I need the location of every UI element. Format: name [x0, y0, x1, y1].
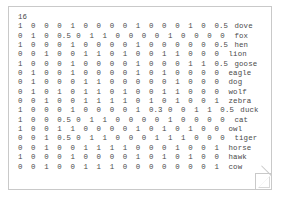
matrix-cell: 0: [31, 50, 44, 59]
matrix-cell: 0: [44, 60, 57, 69]
matrix-cell: 0: [214, 78, 227, 87]
matrix-cell: 0: [76, 116, 89, 125]
matrix-cell: 1: [162, 88, 175, 97]
matrix-cell: 1: [162, 50, 175, 59]
matrix-cell: 0: [214, 50, 227, 59]
matrix-cell: 0: [149, 153, 162, 162]
matrix-cell: 1: [175, 78, 188, 87]
matrix-cell: 0: [110, 50, 123, 59]
matrix-cell: 0: [123, 163, 136, 172]
matrix-cell: 0: [175, 41, 188, 50]
matrix-cell: 1: [136, 69, 149, 78]
row-label-animal: dog: [228, 78, 243, 87]
matrix-cell: 1: [44, 97, 57, 106]
matrix-cell: 1: [136, 153, 149, 162]
matrix-cell: 0: [18, 88, 31, 97]
matrix-cell: 0: [162, 60, 175, 69]
table-row: 0101011010011000wolf: [18, 88, 269, 97]
matrix-cell: 0: [110, 153, 123, 162]
matrix-cell: 0: [162, 163, 175, 172]
matrix-cell: 0: [162, 144, 175, 153]
row-label-animal: lion: [228, 50, 247, 59]
matrix-cell: 0: [57, 69, 70, 78]
matrix-cell: 0: [44, 32, 57, 41]
matrix-cell: 0.5: [57, 32, 76, 41]
matrix-cell: 1: [102, 134, 115, 143]
matrix-cell: 1: [97, 50, 110, 59]
matrix-cell: 0: [76, 32, 89, 41]
table-row: 10001000010.300110.5duck: [18, 106, 269, 115]
matrix-cell: 1: [136, 60, 149, 69]
matrix-cell: 1: [70, 60, 83, 69]
matrix-cell: 1: [97, 97, 110, 106]
matrix-cell: 1: [102, 116, 115, 125]
matrix-cell: 0: [83, 60, 96, 69]
matrix-cell: 0: [110, 69, 123, 78]
matrix-cell: 0: [149, 78, 162, 87]
matrix-cell: 0: [129, 32, 142, 41]
matrix-cell: 0: [31, 125, 44, 134]
table-row: 0010011110001001horse: [18, 144, 269, 153]
matrix-cell: 1: [136, 41, 149, 50]
matrix-cell: 0: [57, 144, 70, 153]
matrix-cell: 0: [83, 22, 96, 31]
matrix-cell: 0.5: [57, 134, 76, 143]
matrix-cell: 0: [18, 69, 31, 78]
matrix-cell: 1: [44, 144, 57, 153]
table-row: 0010011100000001cow: [18, 163, 269, 172]
matrix-cell: 1: [18, 22, 31, 31]
matrix-cell: 1: [83, 144, 96, 153]
matrix-cell: 0: [149, 22, 162, 31]
matrix-cell: 1: [214, 163, 227, 172]
matrix-cell: 1: [110, 97, 123, 106]
matrix-cell: 0: [70, 144, 83, 153]
matrix-cell: 0: [76, 134, 89, 143]
matrix-cell: 0: [188, 163, 201, 172]
matrix-cell: 0: [214, 88, 227, 97]
data-rows-container: 1000100001000100.5dove0100.5011000010000…: [18, 22, 269, 172]
matrix-cell: 1: [97, 163, 110, 172]
matrix-cell: 0: [201, 153, 214, 162]
matrix-cell: 0: [188, 88, 201, 97]
matrix-cell: 1: [31, 78, 44, 87]
matrix-cell: 0: [207, 134, 220, 143]
matrix-cell: 0: [207, 116, 220, 125]
matrix-cell: 0: [214, 69, 227, 78]
matrix-cell: 0: [155, 116, 168, 125]
matrix-cell: 0: [181, 116, 194, 125]
matrix-cell: 0: [149, 144, 162, 153]
matrix-cell: 0: [31, 153, 44, 162]
matrix-cell: 1: [168, 134, 181, 143]
matrix-cell: 1: [214, 97, 227, 106]
matrix-cell: 0: [175, 60, 188, 69]
matrix-cell: 1: [57, 125, 70, 134]
row-label-animal: cow: [228, 163, 243, 172]
matrix-cell: 0: [44, 116, 57, 125]
row-label-animal: tiger: [233, 134, 257, 143]
matrix-cell: 1: [123, 97, 136, 106]
matrix-cell: 0: [175, 69, 188, 78]
matrix-cell: 1: [18, 125, 31, 134]
matrix-cell: 0: [18, 78, 31, 87]
matrix-cell: 0: [175, 22, 188, 31]
matrix-cell: 0: [116, 116, 129, 125]
matrix-cell: 0: [149, 69, 162, 78]
matrix-cell: 1: [89, 134, 102, 143]
matrix-cell: 1: [136, 22, 149, 31]
matrix-cell: 0: [70, 78, 83, 87]
matrix-cell: 0: [83, 106, 96, 115]
matrix-cell: 1: [123, 88, 136, 97]
matrix-cell: 0: [110, 78, 123, 87]
matrix-cell: 0: [110, 60, 123, 69]
matrix-cell: 0: [110, 41, 123, 50]
matrix-cell: 0: [123, 69, 136, 78]
matrix-cell: 0: [149, 88, 162, 97]
matrix-cell: 1: [102, 32, 115, 41]
table-row: 0100.5011000010000fox: [18, 32, 269, 41]
matrix-cell: 0: [97, 60, 110, 69]
matrix-cell: 0: [97, 22, 110, 31]
matrix-cell: 0: [110, 106, 123, 115]
matrix-cell: 0: [116, 134, 129, 143]
matrix-cell: 1: [97, 78, 110, 87]
matrix-cell: 1: [188, 153, 201, 162]
